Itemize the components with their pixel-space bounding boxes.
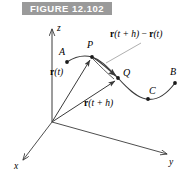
point-label-c: C <box>149 86 156 96</box>
vector-label-difference: r(t + h) − r(t) <box>110 30 162 40</box>
difference-arg-2: (t) <box>153 29 162 39</box>
difference-operator: − <box>139 29 149 39</box>
point-dot-a <box>65 60 69 64</box>
vector-difference <box>92 57 116 79</box>
y-axis-line <box>52 122 167 154</box>
point-label-b: B <box>170 67 176 77</box>
point-label-p: P <box>87 40 93 50</box>
point-dot-q <box>116 76 120 80</box>
point-dots <box>65 55 177 101</box>
x-axis-label: x <box>14 162 18 172</box>
point-label-a: A <box>59 47 65 57</box>
z-axis-label: z <box>57 24 61 34</box>
point-dot-p <box>90 55 94 59</box>
x-axis-line <box>23 122 52 160</box>
vector-label-r-t: r(t) <box>50 68 63 78</box>
difference-arg-1: (t + h) <box>114 29 139 39</box>
space-curve <box>67 56 175 99</box>
vector-label-r-t-plus-h: r(t + h) <box>84 99 113 109</box>
leader-line <box>106 43 141 63</box>
figure-container: FIGURE 12.102 <box>0 0 192 189</box>
vector-label-r-t-plus-h-arg: (t + h) <box>88 98 113 108</box>
point-dot-b <box>173 81 177 85</box>
figure-diagram <box>0 0 192 189</box>
point-label-q: Q <box>123 68 130 78</box>
difference-chord <box>92 57 116 76</box>
curve-path <box>67 56 175 99</box>
point-dot-c <box>146 97 150 101</box>
difference-chord-inner <box>93 59 114 79</box>
y-axis-label: y <box>169 158 173 168</box>
vector-label-r-t-arg: (t) <box>54 67 63 77</box>
